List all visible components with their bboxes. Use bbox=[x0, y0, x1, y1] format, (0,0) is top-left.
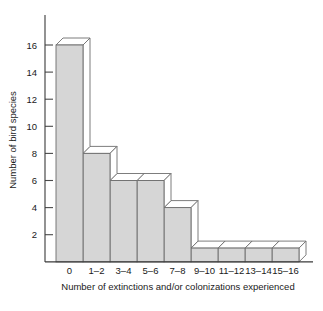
bar-side-face bbox=[83, 38, 90, 153]
chart-canvas: 16 14 12 10 8 6 4 2 bbox=[0, 0, 323, 311]
y-axis-title: Number of bird species bbox=[7, 91, 18, 189]
x-axis-title: Number of extinctions and/or colonizatio… bbox=[61, 281, 294, 292]
y-tick-label: 16 bbox=[26, 40, 37, 51]
x-tick-labels: 0 1–2 3–4 5–6 7–8 9–10 11–12 13–14 15–16 bbox=[67, 265, 299, 276]
x-tick-label: 11–12 bbox=[219, 265, 245, 276]
x-tick-label: 13–14 bbox=[245, 265, 271, 276]
bar-front-face bbox=[272, 248, 299, 262]
y-tick-marks bbox=[45, 45, 53, 235]
y-tick-label: 4 bbox=[32, 202, 37, 213]
x-tick-label: 7–8 bbox=[170, 265, 186, 276]
y-tick-label: 10 bbox=[26, 121, 37, 132]
y-tick-label: 6 bbox=[32, 175, 37, 186]
histogram-figure: 16 14 12 10 8 6 4 2 bbox=[0, 0, 323, 311]
y-tick-label: 2 bbox=[32, 229, 37, 240]
x-tick-label: 3–4 bbox=[116, 265, 132, 276]
x-tick-label: 15–16 bbox=[272, 265, 298, 276]
y-tick-label: 14 bbox=[26, 67, 37, 78]
bar-front-face bbox=[137, 181, 164, 262]
bar-front-face bbox=[110, 181, 137, 262]
x-tick-label: 5–6 bbox=[143, 265, 159, 276]
bar-front-face bbox=[245, 248, 272, 262]
y-tick-label: 8 bbox=[32, 148, 37, 159]
y-tick-labels: 16 14 12 10 8 6 4 2 bbox=[26, 40, 37, 241]
bar-front-face bbox=[56, 45, 83, 262]
bar-front-face bbox=[164, 208, 191, 262]
x-tick-label: 1–2 bbox=[89, 265, 105, 276]
bar-group bbox=[56, 38, 306, 262]
bar-front-face bbox=[83, 153, 110, 262]
x-tick-label: 9–10 bbox=[194, 265, 215, 276]
y-tick-label: 12 bbox=[26, 94, 37, 105]
bar-front-face bbox=[218, 248, 245, 262]
bar-15-16[interactable] bbox=[272, 241, 306, 262]
x-tick-label: 0 bbox=[67, 265, 72, 276]
bar-side-face bbox=[191, 201, 198, 249]
bar-front-face bbox=[191, 248, 218, 262]
